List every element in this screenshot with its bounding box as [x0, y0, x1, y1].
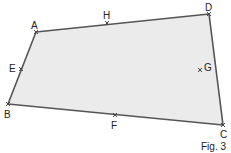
label-vertex-a: A — [31, 20, 38, 31]
label-vertex-c: C — [220, 129, 227, 140]
label-midpoint-g: G — [204, 62, 212, 73]
label-vertex-b: B — [4, 109, 11, 120]
label-vertex-d: D — [205, 2, 212, 13]
label-midpoint-h: H — [103, 10, 110, 21]
figure-caption: Fig. 3 — [201, 141, 226, 152]
label-midpoint-e: E — [9, 63, 16, 74]
quadrilateral-diagram: A D C B H G F E Fig. 3 — [0, 0, 231, 153]
quadrilateral-abcd — [8, 14, 223, 125]
label-midpoint-f: F — [111, 120, 117, 131]
